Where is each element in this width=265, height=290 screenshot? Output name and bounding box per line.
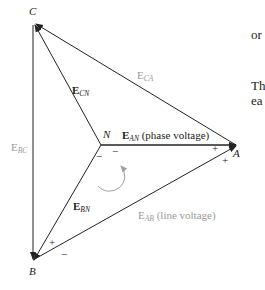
sign-n-minus-left: − (96, 151, 102, 162)
label-ecn-sub: CN (79, 89, 89, 98)
sign-n-minus-right: − (112, 146, 118, 157)
label-ebc-main: E (11, 141, 18, 153)
rotation-arrow-icon (98, 166, 125, 191)
vertex-label-b: B (29, 266, 36, 277)
side-text-ea: ea (251, 94, 263, 107)
vector-eab-line (33, 146, 236, 260)
label-ebc: EBC (11, 142, 27, 155)
label-ebn: EBN (73, 201, 90, 214)
side-text-th: Th (251, 79, 265, 92)
phasor-diagram (0, 0, 265, 290)
label-ebc-sub: BC (18, 146, 28, 155)
label-eab-sub: AB (145, 214, 154, 223)
side-text-or: or (251, 28, 262, 41)
label-ean: EAN (phase voltage) (122, 130, 209, 143)
label-eab-main: E (138, 209, 145, 221)
vertex-label-a: A (233, 148, 240, 159)
sign-b-plus: + (49, 237, 55, 248)
vertex-label-c: C (29, 6, 36, 17)
label-ecn: ECN (72, 85, 89, 98)
sign-a-plus-bottom: + (222, 155, 228, 166)
label-ebn-sub: BN (80, 205, 90, 214)
label-eca-main: E (137, 69, 144, 81)
vector-ebn-line (34, 145, 101, 260)
vertex-label-n: N (103, 129, 110, 140)
sign-a-plus-top: + (212, 143, 218, 154)
label-eca-sub: CA (144, 74, 154, 83)
label-ean-suffix: (phase voltage) (139, 129, 209, 141)
vector-eca-line (36, 24, 236, 145)
label-eca: ECA (137, 70, 153, 83)
label-eab-suffix: (line voltage) (154, 209, 216, 221)
label-eab: EAB (line voltage) (138, 210, 216, 223)
label-ean-sub: AN (129, 134, 139, 143)
sign-b-minus: − (61, 249, 67, 260)
